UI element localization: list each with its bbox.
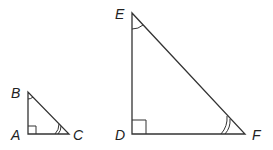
angle-arc-f-inner [221, 116, 227, 134]
angle-arc-e [132, 25, 143, 29]
angle-arc-c-inner [55, 124, 59, 134]
vertex-label-c: C [73, 127, 84, 143]
vertex-label-e: E [115, 6, 125, 22]
triangle-abc-edges [28, 92, 69, 134]
right-angle-marker-a [28, 126, 36, 134]
vertex-label-b: B [11, 85, 20, 101]
angle-arc-b [28, 97, 33, 99]
similar-triangles-diagram: B A C E D F [0, 0, 273, 150]
right-angle-marker-d [132, 120, 146, 134]
vertex-label-a: A [10, 127, 20, 143]
triangle-def: E D F [115, 6, 262, 143]
vertex-label-f: F [252, 127, 262, 143]
triangle-abc: B A C [10, 85, 84, 143]
triangle-def-edges [132, 13, 245, 134]
vertex-label-d: D [115, 127, 125, 143]
